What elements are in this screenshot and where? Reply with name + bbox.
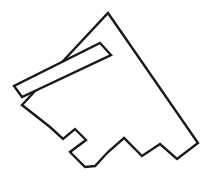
figure-canvas xyxy=(0,0,212,186)
line-art-figure xyxy=(0,0,212,186)
